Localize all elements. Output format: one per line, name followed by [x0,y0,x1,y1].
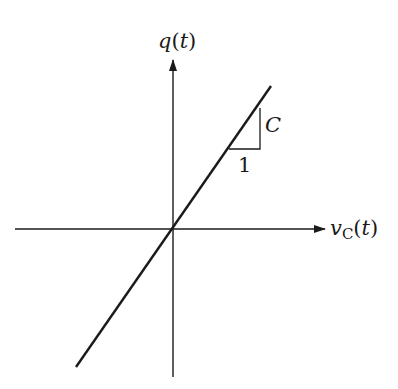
y-axis-label: q(t) [158,29,196,53]
slope-triangle [229,108,260,149]
slope-run-label: 1 [238,153,251,177]
x-axis-label: vC(t) [330,216,378,243]
slope-rise-label: C [265,113,281,137]
capacitor-qv-diagram: q(t) vC(t) C 1 [0,0,398,389]
